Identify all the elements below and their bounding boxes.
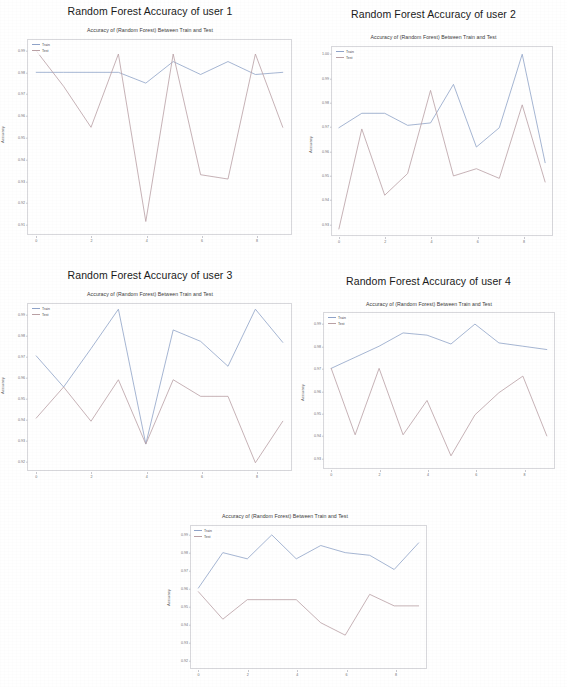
- legend-label-train: Train: [338, 316, 346, 321]
- x-tick-mark: [524, 237, 525, 239]
- y-tick-mark: [26, 94, 28, 95]
- chart-subtitle: Accuracy of (Random Forest) Between Trai…: [0, 27, 300, 33]
- x-tick-mark: [257, 472, 258, 474]
- y-tick-mark: [26, 356, 28, 357]
- y-tick-label: 0.96: [12, 376, 25, 380]
- x-tick-mark: [347, 670, 348, 672]
- x-tick-mark: [380, 470, 381, 472]
- x-tick-label: 0: [338, 240, 340, 244]
- plot-area-user-3: 0.920.930.940.950.960.970.980.9902468: [27, 303, 292, 471]
- y-axis-label: Accuracy: [166, 589, 171, 606]
- y-tick-mark: [26, 440, 28, 441]
- y-tick-mark: [26, 225, 28, 226]
- legend-swatch-train: [328, 317, 336, 318]
- x-tick-label: 4: [430, 240, 432, 244]
- y-tick-mark: [330, 151, 332, 152]
- x-tick-label: 2: [90, 239, 92, 243]
- x-tick-mark: [431, 237, 432, 239]
- legend-swatch-test: [328, 323, 336, 324]
- plot-area-user-1: 0.910.920.930.940.950.960.970.980.990246…: [27, 39, 292, 235]
- y-tick-label: 0.96: [175, 587, 188, 591]
- x-tick-label: 8: [524, 473, 526, 477]
- y-tick-label: 0.95: [308, 412, 321, 416]
- y-tick-label: 0.97: [12, 92, 25, 96]
- y-tick-mark: [189, 571, 191, 572]
- y-tick-mark: [26, 138, 28, 139]
- y-tick-label: 0.92: [175, 659, 188, 663]
- x-tick-label: 0: [35, 239, 37, 243]
- y-tick-label: 0.95: [12, 136, 25, 140]
- y-tick-label: 0.98: [12, 71, 25, 75]
- x-tick-label: 6: [477, 240, 479, 244]
- y-tick-label: 0.97: [316, 125, 329, 129]
- y-tick-label: 0.96: [308, 390, 321, 394]
- x-tick-mark: [36, 472, 37, 474]
- page-title-user-4: Random Forest Accuracy of user 4: [290, 275, 567, 287]
- y-tick-label: 0.95: [12, 397, 25, 401]
- panel-user-4: Random Forest Accuracy of user 4 Accurac…: [290, 262, 567, 492]
- y-tick-mark: [26, 51, 28, 52]
- y-tick-label: 1.00: [316, 52, 329, 56]
- y-tick-label: 0.95: [316, 174, 329, 178]
- y-tick-mark: [330, 103, 332, 104]
- y-tick-mark: [322, 391, 324, 392]
- y-axis-label: Accuracy: [0, 126, 5, 143]
- y-tick-mark: [26, 181, 28, 182]
- legend-label-train: Train: [42, 307, 50, 312]
- y-tick-label: 0.92: [12, 201, 25, 205]
- y-tick-label: 0.91: [12, 223, 25, 227]
- legend-label-test: Test: [338, 322, 344, 327]
- legend-swatch-test: [194, 536, 202, 537]
- x-tick-label: 0: [197, 673, 199, 677]
- series-line-test: [339, 90, 545, 229]
- legend-item-train: Train: [328, 316, 346, 321]
- legend-item-train: Train: [336, 50, 354, 55]
- x-tick-label: 0: [35, 475, 37, 479]
- y-tick-label: 0.98: [316, 101, 329, 105]
- x-tick-mark: [198, 670, 199, 672]
- y-tick-label: 0.94: [175, 623, 188, 627]
- y-tick-label: 0.95: [175, 605, 188, 609]
- y-tick-label: 0.93: [12, 180, 25, 184]
- chart-user-3: Accuracy of (Random Forest) Between Trai…: [0, 288, 300, 488]
- legend-swatch-train: [32, 308, 40, 309]
- y-axis-label: Accuracy: [0, 377, 5, 394]
- y-tick-mark: [26, 159, 28, 160]
- x-tick-mark: [147, 472, 148, 474]
- x-tick-label: 4: [296, 673, 298, 677]
- x-tick-label: 8: [395, 673, 397, 677]
- x-tick-label: 2: [90, 475, 92, 479]
- y-tick-label: 0.92: [12, 460, 25, 464]
- x-tick-mark: [385, 237, 386, 239]
- legend-label-train: Train: [42, 43, 50, 48]
- x-tick-label: 8: [523, 240, 525, 244]
- y-tick-label: 0.94: [316, 198, 329, 202]
- legend-label-train: Train: [346, 50, 354, 55]
- chart-user-5: Accuracy of (Random Forest) Between Trai…: [140, 500, 430, 687]
- y-tick-mark: [189, 553, 191, 554]
- chart-user-4: Accuracy of (Random Forest) Between Trai…: [298, 298, 560, 488]
- y-tick-label: 0.96: [12, 114, 25, 118]
- x-tick-mark: [248, 670, 249, 672]
- y-tick-label: 0.97: [12, 355, 25, 359]
- y-tick-label: 0.99: [316, 77, 329, 81]
- y-tick-mark: [189, 535, 191, 536]
- legend-swatch-train: [32, 44, 40, 45]
- line-plot-svg: [324, 313, 554, 468]
- x-tick-mark: [476, 470, 477, 472]
- legend-item-train: Train: [194, 529, 212, 534]
- x-tick-mark: [36, 236, 37, 238]
- x-tick-label: 2: [384, 240, 386, 244]
- legend-label-test: Test: [346, 56, 352, 61]
- x-tick-label: 6: [201, 475, 203, 479]
- x-tick-mark: [202, 472, 203, 474]
- legend-item-train: Train: [32, 43, 50, 48]
- series-line-test: [331, 368, 547, 455]
- x-tick-mark: [91, 472, 92, 474]
- y-tick-mark: [330, 127, 332, 128]
- y-tick-label: 0.99: [12, 313, 25, 317]
- x-tick-label: 6: [346, 673, 348, 677]
- y-tick-label: 0.97: [175, 569, 188, 573]
- page-title-user-1: Random Forest Accuracy of user 1: [0, 5, 300, 17]
- chart-legend: Train Test: [334, 48, 356, 62]
